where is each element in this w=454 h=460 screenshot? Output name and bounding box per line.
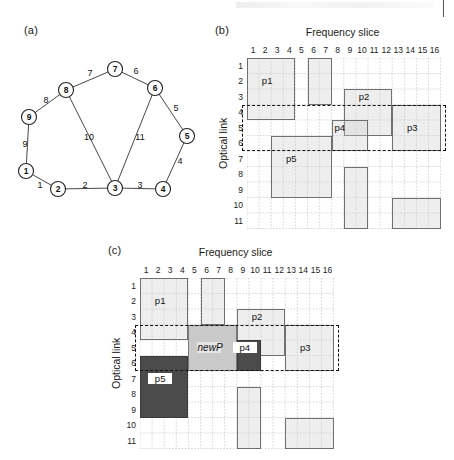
row-header: 8 — [118, 389, 136, 399]
row-header: 2 — [225, 76, 243, 86]
spectrum-block-label-p3: p3 — [400, 122, 424, 133]
row-header: 6 — [225, 138, 243, 148]
topology-node-label: 4 — [161, 184, 166, 194]
x-axis-title: Frequency slice — [199, 246, 273, 258]
panel-a-tag: (a) — [24, 24, 38, 36]
topology-node-label: 6 — [153, 83, 158, 93]
spectrum-grid-panel-c: Frequency sliceOptical link1234567891011… — [108, 244, 344, 459]
topology-link-label: 5 — [173, 103, 178, 113]
topology-link-label: 10 — [84, 132, 94, 142]
topology-node: 1 — [19, 164, 34, 179]
row-header: 8 — [225, 169, 243, 179]
topology-node: 3 — [108, 181, 123, 196]
row-header: 1 — [118, 281, 136, 291]
topology-link-label: 9 — [22, 139, 27, 149]
topology-link-label: 8 — [43, 95, 48, 105]
row-header: 10 — [118, 420, 136, 430]
network-topology-panel: 1234567891011123456789 — [0, 40, 210, 220]
column-header: 16 — [426, 45, 444, 55]
spectrum-block-label-p4: p4 — [328, 122, 352, 133]
topology-link-label: 7 — [87, 68, 92, 78]
spectrum-block-label-p2: p2 — [245, 311, 269, 322]
row-header: 3 — [118, 312, 136, 322]
spectrum-grid-panel-b: Frequency sliceOptical link1234567891011… — [215, 24, 451, 239]
topology-link-label: 11 — [135, 132, 144, 142]
figure-root: (a) 1234567891011123456789 (b) Frequency… — [0, 0, 454, 460]
topology-node: 4 — [156, 182, 171, 197]
row-header: 9 — [118, 405, 136, 415]
topology-node-label: 5 — [185, 131, 190, 141]
topology-node: 5 — [180, 129, 195, 144]
topology-link-label: 3 — [137, 180, 142, 190]
row-header: 11 — [225, 216, 243, 226]
row-header: 6 — [118, 358, 136, 368]
row-header: 10 — [225, 200, 243, 210]
row-header: 7 — [225, 154, 243, 164]
topology-link-label: 4 — [177, 156, 182, 166]
topology-node-label: 8 — [64, 85, 69, 95]
row-header: 7 — [118, 374, 136, 384]
row-header: 5 — [118, 343, 136, 353]
topology-link-label: 6 — [133, 66, 138, 76]
topology-node: 7 — [108, 62, 123, 77]
spectrum-grid: p1p2p3p4p5 — [247, 58, 441, 229]
spectrum-block-label-p2: p2 — [352, 91, 376, 102]
spectrum-block-label-p4: p4 — [233, 342, 257, 353]
spectrum-block-label-p1: p1 — [255, 75, 279, 86]
spectrum-block-label-newp: newP — [197, 342, 221, 353]
spectrum-block-label-p3: p3 — [293, 342, 317, 353]
topology-node-label: 7 — [113, 64, 118, 74]
topology-node-label: 1 — [24, 166, 29, 176]
cropped-page-header-artifact — [236, 2, 434, 8]
spectrum-grid: p1p2p3newPp4p5 — [140, 278, 334, 449]
topology-node-label: 9 — [27, 112, 32, 122]
topology-node: 6 — [148, 81, 163, 96]
topology-node-label: 2 — [56, 184, 61, 194]
row-header: 4 — [225, 107, 243, 117]
topology-link — [159, 94, 183, 130]
row-header: 5 — [225, 123, 243, 133]
row-header: 3 — [225, 92, 243, 102]
row-header: 2 — [118, 296, 136, 306]
topology-node-label: 3 — [113, 183, 118, 193]
row-header: 9 — [225, 185, 243, 195]
column-header: 16 — [319, 265, 337, 275]
spectrum-block-label-p1: p1 — [148, 295, 172, 306]
row-header: 4 — [118, 327, 136, 337]
topology-node: 2 — [51, 182, 66, 197]
spectrum-block-label-p5: p5 — [148, 373, 172, 384]
topology-graph: 1234567891011123456789 — [0, 40, 210, 220]
row-header: 1 — [225, 61, 243, 71]
page-edge-rule — [443, 0, 444, 17]
spectrum-block-label-p5: p5 — [279, 153, 303, 164]
x-axis-title: Frequency slice — [306, 26, 380, 38]
topology-link-label: 1 — [37, 180, 42, 190]
topology-node: 9 — [22, 110, 37, 125]
row-header: 11 — [118, 436, 136, 446]
topology-node: 8 — [59, 83, 74, 98]
topology-link-label: 2 — [82, 180, 87, 190]
